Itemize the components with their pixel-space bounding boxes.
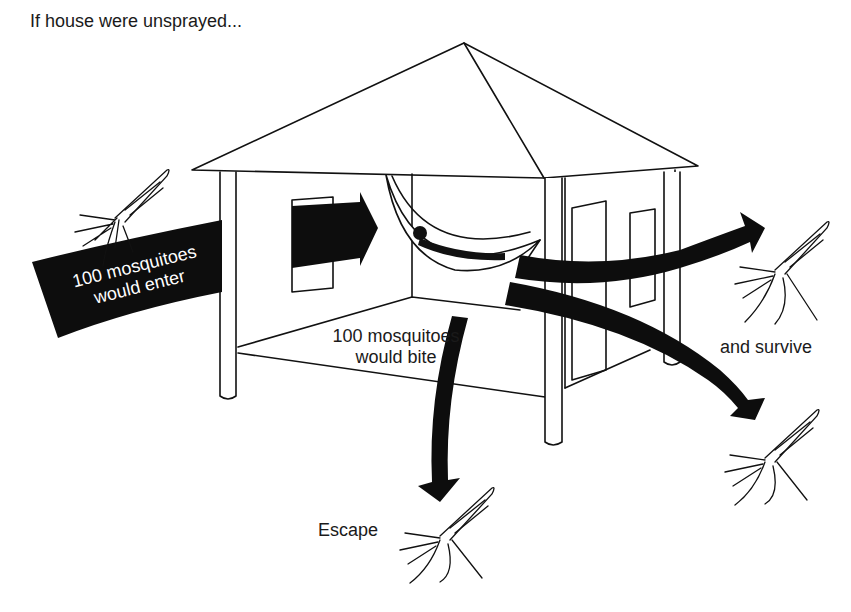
enter-arrow bbox=[292, 192, 378, 268]
unsprayed-house-diagram: If house were unsprayed... 100 mosquitoe… bbox=[0, 0, 851, 612]
bite-label: 100 mosquitoes would bite bbox=[316, 326, 476, 368]
mosquito-icon-surviving-lower bbox=[725, 410, 819, 505]
escape-label: Escape bbox=[318, 520, 378, 541]
house-illustration bbox=[0, 0, 851, 612]
mosquito-icon-escaping bbox=[400, 488, 494, 583]
bite-label-line2: would bite bbox=[316, 347, 476, 368]
diagram-title: If house were unsprayed... bbox=[30, 11, 242, 32]
survive-label: and survive bbox=[720, 337, 812, 358]
roof bbox=[192, 43, 698, 178]
bite-label-line1: 100 mosquitoes bbox=[316, 326, 476, 347]
